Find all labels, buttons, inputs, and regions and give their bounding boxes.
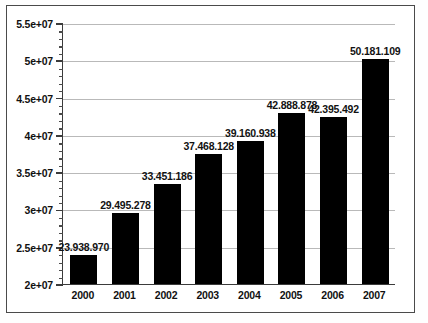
x-axis-tick-label: 2005	[280, 289, 303, 301]
x-axis-tick-label: 2004	[238, 289, 261, 301]
y-axis-tick-label: 5.5e+07	[16, 18, 53, 30]
x-axis-tick-label: 2001	[113, 289, 136, 301]
y-axis-tick-label: 4.5e+07	[16, 93, 53, 105]
y-axis-tick-label: 2.5e+07	[16, 242, 53, 254]
x-axis-tick-label: 2003	[196, 289, 219, 301]
y-axis-tick-label: 2e+07	[25, 279, 54, 291]
x-axis-tick-label: 2000	[72, 289, 95, 301]
y-axis-labels: 5.5e+075e+074.5e+074e+073.5e+073e+072.5e…	[0, 24, 53, 285]
chart-figure: 5.5e+075e+074.5e+074e+073.5e+073e+072.5e…	[0, 0, 428, 323]
y-axis-tick-label: 3.5e+07	[16, 167, 53, 179]
x-axis-tick-label: 2007	[363, 289, 386, 301]
x-axis-tick-label: 2006	[321, 289, 344, 301]
y-axis-tick-label: 5e+07	[25, 55, 54, 67]
y-axis-tick-label: 4e+07	[25, 130, 54, 142]
x-axis-labels: 20002001200220032004200520062007	[62, 0, 395, 323]
y-axis-tick-label: 3e+07	[25, 204, 54, 216]
x-axis-tick-label: 2002	[155, 289, 178, 301]
